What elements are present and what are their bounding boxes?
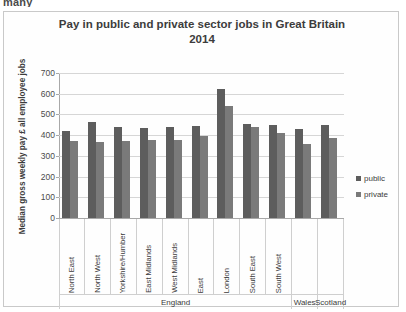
y-axis-label: Median gross weekly pay £ all employee j… [18,47,27,247]
chart-container: Pay in public and private sector jobs in… [3,11,399,307]
bar-private [148,140,156,218]
bar-private [96,142,104,218]
bar-group [240,73,266,218]
legend-label: private [364,190,388,199]
bar-private [329,138,337,218]
category-tick-1: North West [85,219,111,295]
bar-private [70,141,78,218]
bar-group [163,73,189,218]
bar-group [292,73,318,218]
category-tick-8: South West [266,219,292,295]
bar-group [59,73,85,218]
bar-public [114,127,122,218]
legend-item-public[interactable]: public [356,174,388,183]
bar-public [217,89,225,218]
category-tick-7: South East [240,219,266,295]
category-label: East [197,278,205,293]
category-label: West Midlands [171,243,179,293]
category-label: Yorkshire/Humber [119,233,127,294]
y-axis-tick-label: 100 [41,192,55,202]
category-tick-10 [318,219,344,295]
y-axis-tick-label: 0 [50,213,55,223]
chart-title: Pay in public and private sector jobs in… [34,17,370,47]
y-axis-tick-label: 500 [41,109,55,119]
y-axis-tick-label: 200 [41,172,55,182]
bar-public [269,125,277,218]
bar-private [174,140,182,218]
bar-group [266,73,292,218]
country-group-label: England [59,295,292,309]
category-label: South West [275,254,283,293]
bar-public [321,125,329,218]
bar-public [166,127,174,218]
category-label: East Midlands [145,245,153,293]
y-axis-tick-label: 600 [41,89,55,99]
bar-group [111,73,137,218]
bar-public [140,128,148,218]
y-axis-tick-label: 400 [41,130,55,140]
plot-area: 0100200300400500600700 [59,73,344,218]
y-axis-tick-label: 700 [41,68,55,78]
bar-private [251,127,259,218]
bar-public [192,126,200,218]
category-tick-5: East [189,219,215,295]
category-label: South East [249,256,257,293]
bar-private [303,144,311,218]
bar-group [85,73,111,218]
category-label: North West [94,255,102,293]
category-tick-2: Yorkshire/Humber [111,219,137,295]
category-label: London [223,268,231,293]
bar-public [243,124,251,218]
legend-label: public [364,174,385,183]
bar-private [200,136,208,218]
chart-title-line2: 2014 [34,32,370,47]
legend-swatch-icon [356,192,361,197]
category-tick-6: London [214,219,240,295]
cut-off-top-text: many [3,0,33,7]
category-tick-0: North East [59,219,85,295]
legend-item-private[interactable]: private [356,190,388,199]
bar-group [137,73,163,218]
category-tick-3: East Midlands [137,219,163,295]
category-tick-4: West Midlands [163,219,189,295]
bar-group [189,73,215,218]
chart-legend: publicprivate [356,174,388,206]
bar-public [295,129,303,218]
bar-group [318,73,344,218]
category-label: North East [68,257,76,293]
y-axis-tick-label: 300 [41,151,55,161]
country-group-label: Scotland [318,295,344,309]
bar-private [225,106,233,218]
legend-swatch-icon [356,176,361,181]
bar-private [122,141,130,218]
chart-title-line1: Pay in public and private sector jobs in… [59,18,345,30]
bar-group [214,73,240,218]
country-axis: EnglandWalesScotland [59,294,344,309]
bar-private [277,133,285,218]
category-axis: North EastNorth WestYorkshire/HumberEast… [59,218,344,295]
bar-public [62,131,70,218]
bar-public [88,122,96,218]
category-tick-9 [292,219,318,295]
